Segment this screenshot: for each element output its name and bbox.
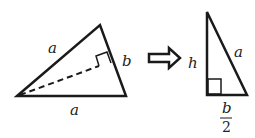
right-angle-marker (208, 79, 221, 94)
right-triangle: h a b 2 (188, 12, 247, 135)
isosceles-triangle-diagram: a b a h a b 2 (0, 0, 255, 138)
implies-arrow-icon (149, 48, 180, 68)
label-base-denominator: 2 (222, 119, 231, 135)
left-triangle: a b a (17, 25, 132, 119)
label-height: h (188, 54, 198, 72)
right-angle-marker (96, 52, 111, 66)
label-bottom-side: a (70, 101, 79, 119)
label-base-numerator: b (222, 99, 232, 117)
label-hypotenuse: a (234, 43, 243, 61)
dashed-altitude (20, 66, 99, 95)
label-left-side: a (48, 39, 57, 57)
label-right-side: b (122, 52, 132, 70)
